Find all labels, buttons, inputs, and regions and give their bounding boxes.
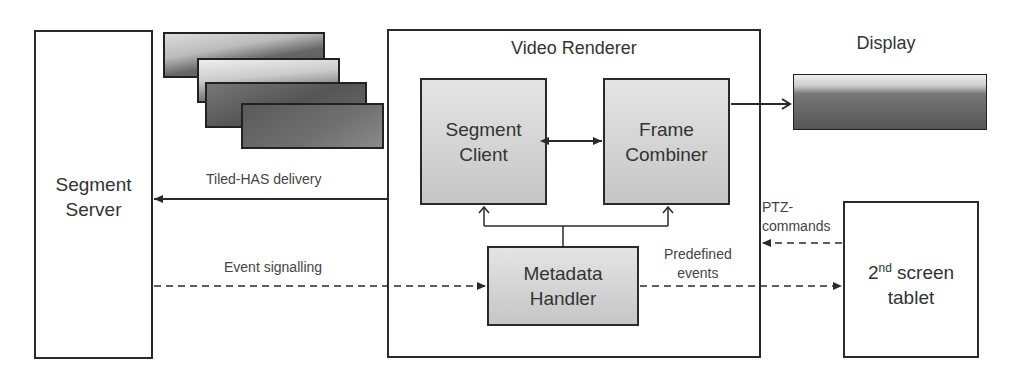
connectors <box>0 0 1016 374</box>
